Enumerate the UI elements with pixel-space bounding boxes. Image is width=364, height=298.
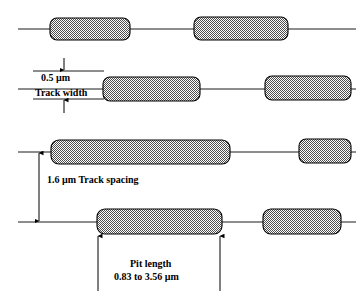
track-width-dimension (33, 58, 104, 113)
pit-1-2 (194, 17, 288, 40)
track-width-value-label: 0.5 µm (41, 72, 70, 84)
track-row-4 (18, 209, 356, 234)
track-width-name-label: Track width (35, 87, 87, 99)
pit-4-1 (97, 209, 222, 234)
pit-geometry-diagram: 0.5 µm Track width 1.6 µm Track spacing … (0, 0, 364, 298)
pit-2-1 (103, 77, 200, 101)
pit-2-2 (265, 76, 351, 100)
pit-4-2 (263, 209, 341, 234)
pit-1-1 (50, 18, 130, 40)
track-row-3 (18, 139, 356, 164)
pit-length-title-label: Pit length (130, 258, 171, 270)
pit-length-range-label: 0.83 to 3.56 µm (114, 271, 179, 283)
track-spacing-label: 1.6 µm Track spacing (47, 174, 139, 186)
pit-3-2 (299, 139, 351, 163)
track-row-1 (18, 17, 356, 40)
diagram-canvas (0, 0, 364, 298)
pit-3-1 (51, 140, 230, 164)
